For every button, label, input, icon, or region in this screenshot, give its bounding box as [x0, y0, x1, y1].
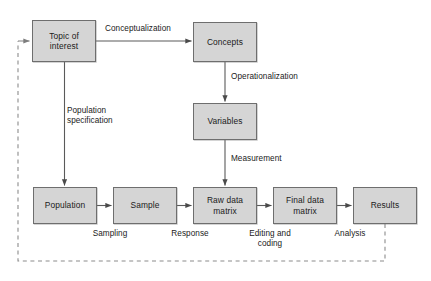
- node-sample-label: Sample: [129, 200, 162, 211]
- node-final-data-matrix[interactable]: Final data matrix: [273, 187, 337, 224]
- node-results[interactable]: Results: [353, 187, 417, 224]
- node-concepts-label: Concepts: [205, 37, 245, 48]
- node-variables[interactable]: Variables: [193, 103, 257, 140]
- edge-label-population-specification: Population specification: [67, 106, 147, 127]
- research-process-diagram: Topic of interest Concepts Variables Pop…: [0, 0, 431, 281]
- node-variables-label: Variables: [205, 116, 244, 127]
- node-population[interactable]: Population: [33, 187, 97, 224]
- node-population-label: Population: [43, 200, 88, 211]
- edge-label-operationalization: Operationalization: [231, 72, 331, 82]
- edge-label-response: Response: [159, 229, 221, 239]
- node-topic-of-interest[interactable]: Topic of interest: [32, 20, 96, 62]
- node-final-data-matrix-label: Final data matrix: [274, 195, 336, 216]
- node-topic-of-interest-label: Topic of interest: [33, 31, 95, 52]
- node-raw-data-matrix-label: Raw data matrix: [194, 195, 256, 216]
- edge-label-measurement: Measurement: [231, 154, 311, 164]
- node-sample[interactable]: Sample: [113, 187, 177, 224]
- node-results-label: Results: [369, 200, 402, 211]
- edge-label-conceptualization: Conceptualization: [105, 24, 205, 34]
- edge-label-sampling: Sampling: [79, 229, 141, 239]
- edge-label-editing-and-coding: Editing and coding: [239, 229, 301, 250]
- node-raw-data-matrix[interactable]: Raw data matrix: [193, 187, 257, 224]
- edge-label-analysis: Analysis: [319, 229, 381, 239]
